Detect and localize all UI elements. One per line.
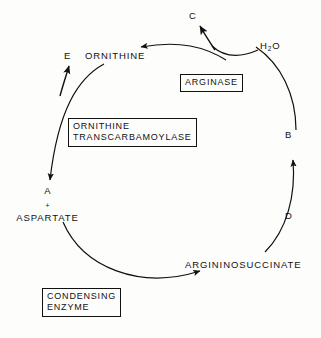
enzyme-box-ornithine-transcarbamoylase: ORNITHINE TRANSCARBAMOYLASE <box>68 118 197 147</box>
water-h: H <box>260 40 268 51</box>
blank-label-a: A <box>10 186 85 196</box>
urea-cycle-figure: E ORNITHINE C H2O B D ARGININOSUCCINATE … <box>0 0 321 338</box>
blank-label-b: B <box>285 130 291 140</box>
metabolite-ornithine: ORNITHINE <box>85 51 145 61</box>
metabolite-aspartate: ASPARTATE <box>10 213 85 223</box>
enzyme-arginase-line-1: ARGINASE <box>185 77 238 88</box>
enzyme-box-condensing-enzyme: CONDENSING ENZYME <box>42 288 121 317</box>
arc-b-to-top-right <box>256 47 296 130</box>
line-water-inflow <box>212 46 258 56</box>
plus-sign: + <box>10 202 85 209</box>
water-o: O <box>272 40 280 51</box>
water-subscript: 2 <box>268 45 273 52</box>
arrow-to-c <box>200 26 215 50</box>
enzyme-condensing-line-2: ENZYME <box>47 302 116 313</box>
metabolite-argininosuccinate: ARGININOSUCCINATE <box>185 260 301 270</box>
blank-label-d: D <box>285 211 292 221</box>
metabolite-water: H2O <box>260 41 281 51</box>
enzyme-otc-line-1: ORNITHINE <box>73 121 192 132</box>
enzyme-condensing-line-1: CONDENSING <box>47 291 116 302</box>
enzyme-otc-line-2: TRANSCARBAMOYLASE <box>73 132 192 143</box>
arc-argininosuccinate-to-b <box>265 160 294 252</box>
aspartate-group: A + ASPARTATE <box>10 186 85 222</box>
arc-aspartate-to-argininosuccinate <box>63 222 200 278</box>
arrow-to-e <box>60 66 69 96</box>
blank-label-c: C <box>189 11 196 21</box>
blank-label-e: E <box>64 51 70 61</box>
enzyme-box-arginase: ARGINASE <box>180 74 243 92</box>
